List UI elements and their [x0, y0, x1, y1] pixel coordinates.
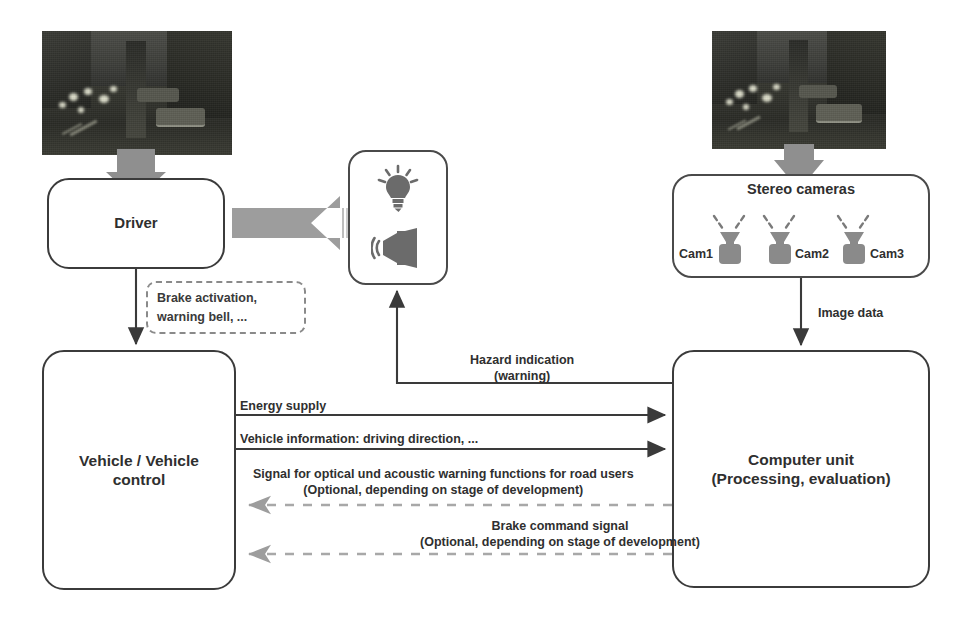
computer-unit-line2: (Processing, evaluation) [711, 470, 890, 487]
vehicle-control-label: Vehicle / Vehicle control [79, 451, 199, 490]
callout-line2: warning bell, ... [157, 308, 304, 326]
camera-label-cam1: Cam1 [679, 247, 713, 261]
hazard-line1: Hazard indication [470, 353, 574, 367]
lightbulb-icon [373, 163, 423, 217]
speaker-icon [371, 227, 425, 273]
callout-brake-activation: Brake activation, warning bell, ... [146, 281, 306, 334]
edge-label-image-data: Image data [818, 305, 883, 321]
edge-label-hazard-indication: Hazard indication (warning) [470, 352, 574, 385]
node-computer-unit[interactable]: Computer unit (Processing, evaluation) [672, 350, 930, 588]
hazard-line2: (warning) [494, 369, 550, 383]
edge-label-brake-command: Brake command signal (Optional, dependin… [420, 518, 700, 551]
night-traffic-photo-right [712, 31, 886, 149]
edge-label-energy-supply: Energy supply [240, 398, 326, 414]
camera-label-cam2: Cam2 [795, 247, 829, 261]
night-traffic-photo-left [42, 31, 232, 155]
computer-unit-label: Computer unit (Processing, evaluation) [711, 450, 890, 489]
brake-command-line1: Brake command signal [492, 519, 629, 533]
computer-unit-line1: Computer unit [748, 451, 854, 468]
edge-warning-to-driver-arrow [232, 196, 347, 250]
node-vehicle-control[interactable]: Vehicle / Vehicle control [42, 350, 236, 590]
vehicle-control-line1: Vehicle / Vehicle [79, 452, 199, 469]
diagram-canvas: Driver Vehicle / Vehicle control [0, 0, 972, 621]
warning-signal-line2: (Optional, depending on stage of develop… [303, 483, 583, 497]
node-warning-output[interactable] [348, 150, 448, 285]
node-driver[interactable]: Driver [47, 178, 225, 269]
edge-label-vehicle-information: Vehicle information: driving direction, … [240, 431, 478, 447]
stereo-cameras-title: Stereo cameras [672, 181, 930, 197]
brake-command-line2: (Optional, depending on stage of develop… [420, 535, 700, 549]
camera-label-cam3: Cam3 [870, 247, 904, 261]
edge-label-warning-signal: Signal for optical und acoustic warning … [253, 466, 634, 499]
warning-signal-line1: Signal for optical und acoustic warning … [253, 467, 634, 481]
callout-line1: Brake activation, [157, 289, 304, 307]
vehicle-control-line2: control [113, 471, 166, 488]
driver-label: Driver [114, 214, 157, 233]
